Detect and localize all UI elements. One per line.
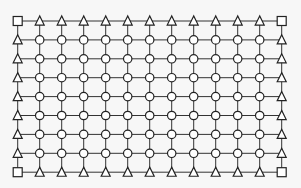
interior-circle-node <box>190 111 198 119</box>
interior-circle-node <box>102 149 110 157</box>
interior-circle-node <box>102 55 110 63</box>
interior-circle-node <box>212 130 220 138</box>
interior-circle-node <box>36 149 44 157</box>
interior-circle-node <box>190 74 198 82</box>
interior-circle-node <box>80 130 88 138</box>
interior-circle-node <box>168 92 176 100</box>
interior-circle-node <box>256 74 264 82</box>
interior-circle-node <box>168 111 176 119</box>
interior-circle-node <box>58 111 66 119</box>
interior-circle-node <box>190 55 198 63</box>
interior-circle-node <box>36 36 44 44</box>
interior-circle-node <box>190 92 198 100</box>
interior-circle-node <box>80 149 88 157</box>
interior-circle-node <box>102 36 110 44</box>
interior-circle-node <box>80 92 88 100</box>
interior-circle-node <box>168 55 176 63</box>
interior-circle-node <box>234 55 242 63</box>
interior-circle-node <box>58 55 66 63</box>
interior-circle-node <box>80 111 88 119</box>
interior-circle-node <box>58 92 66 100</box>
interior-circle-node <box>36 55 44 63</box>
interior-circle-node <box>146 130 154 138</box>
interior-circle-node <box>36 92 44 100</box>
interior-circle-node <box>80 55 88 63</box>
interior-circle-node <box>124 111 132 119</box>
interior-circle-node <box>168 36 176 44</box>
interior-circle-node <box>256 149 264 157</box>
interior-circle-node <box>234 92 242 100</box>
interior-circle-node <box>168 74 176 82</box>
interior-circle-node <box>234 149 242 157</box>
interior-circle-node <box>256 130 264 138</box>
interior-circle-node <box>234 74 242 82</box>
interior-circle-node <box>212 36 220 44</box>
interior-circle-node <box>256 92 264 100</box>
interior-circle-node <box>36 111 44 119</box>
grid-diagram <box>0 0 301 188</box>
interior-circle-node <box>36 74 44 82</box>
corner-square-node <box>277 17 286 26</box>
interior-circle-node <box>212 111 220 119</box>
interior-circle-node <box>256 55 264 63</box>
interior-circle-node <box>146 149 154 157</box>
interior-circle-node <box>212 149 220 157</box>
interior-circle-node <box>256 111 264 119</box>
interior-circle-node <box>102 74 110 82</box>
interior-circle-node <box>212 74 220 82</box>
interior-circle-node <box>102 130 110 138</box>
interior-circle-node <box>168 149 176 157</box>
interior-circle-node <box>124 130 132 138</box>
interior-circle-node <box>168 130 176 138</box>
interior-circle-node <box>58 149 66 157</box>
interior-circle-node <box>124 36 132 44</box>
interior-circle-node <box>80 74 88 82</box>
interior-circle-node <box>102 92 110 100</box>
interior-circle-node <box>146 111 154 119</box>
interior-circle-node <box>58 130 66 138</box>
interior-circle-node <box>190 36 198 44</box>
interior-circle-node <box>124 55 132 63</box>
interior-circle-node <box>190 130 198 138</box>
interior-circle-node <box>58 74 66 82</box>
interior-circle-node <box>234 111 242 119</box>
interior-circle-node <box>146 92 154 100</box>
corner-square-node <box>13 168 22 177</box>
interior-circle-node <box>58 36 66 44</box>
interior-circle-node <box>234 36 242 44</box>
interior-circle-node <box>102 111 110 119</box>
interior-circle-node <box>124 74 132 82</box>
interior-circle-node <box>146 36 154 44</box>
interior-circle-node <box>190 149 198 157</box>
interior-circle-node <box>256 36 264 44</box>
interior-circle-node <box>234 130 242 138</box>
interior-circle-node <box>146 74 154 82</box>
corner-square-node <box>277 168 286 177</box>
corner-square-node <box>13 17 22 26</box>
interior-circle-node <box>80 36 88 44</box>
interior-circle-node <box>124 92 132 100</box>
interior-circle-node <box>146 55 154 63</box>
interior-circle-node <box>212 92 220 100</box>
interior-circle-node <box>124 149 132 157</box>
interior-circle-node <box>212 55 220 63</box>
interior-circle-node <box>36 130 44 138</box>
